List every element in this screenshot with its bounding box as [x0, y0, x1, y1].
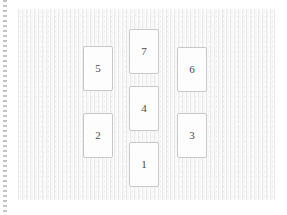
card-5[interactable]: 5 — [83, 46, 113, 91]
card-7[interactable]: 7 — [129, 29, 159, 74]
card-2[interactable]: 2 — [83, 113, 113, 158]
card-4[interactable]: 4 — [129, 86, 159, 131]
card-layout-canvas: 5274163 — [0, 0, 287, 215]
card-6[interactable]: 6 — [177, 47, 207, 92]
card-label: 4 — [141, 103, 147, 114]
card-label: 7 — [141, 46, 147, 57]
card-1[interactable]: 1 — [129, 142, 159, 187]
card-label: 6 — [189, 64, 195, 75]
card-3[interactable]: 3 — [177, 113, 207, 158]
card-label: 3 — [189, 130, 195, 141]
card-label: 5 — [95, 63, 101, 74]
card-label: 1 — [141, 159, 147, 170]
card-label: 2 — [95, 130, 101, 141]
card-layer: 5274163 — [0, 0, 287, 215]
